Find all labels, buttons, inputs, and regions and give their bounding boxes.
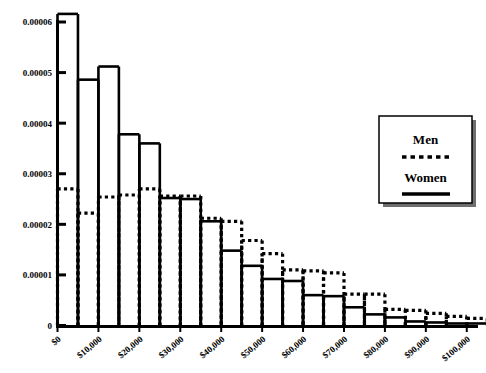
y-tick-label: 0	[48, 321, 53, 331]
y-tick-label: 0.00006	[23, 17, 53, 27]
legend-label-women: Women	[404, 170, 447, 185]
chart-legend: Men Women	[379, 116, 476, 207]
y-tick-label: 0.00003	[23, 169, 53, 179]
y-tick-label: 0.00002	[23, 220, 53, 230]
y-tick-label: 0.00001	[23, 270, 53, 280]
legend-label-men: Men	[413, 132, 439, 147]
y-tick-label: 0.00005	[23, 68, 53, 78]
histogram-chart: 00.000010.000020.000030.000040.000050.00…	[0, 0, 486, 373]
y-tick-label: 0.00004	[23, 119, 53, 129]
legend-box	[379, 116, 472, 203]
chart-canvas: 00.000010.000020.000030.000040.000050.00…	[0, 0, 486, 373]
